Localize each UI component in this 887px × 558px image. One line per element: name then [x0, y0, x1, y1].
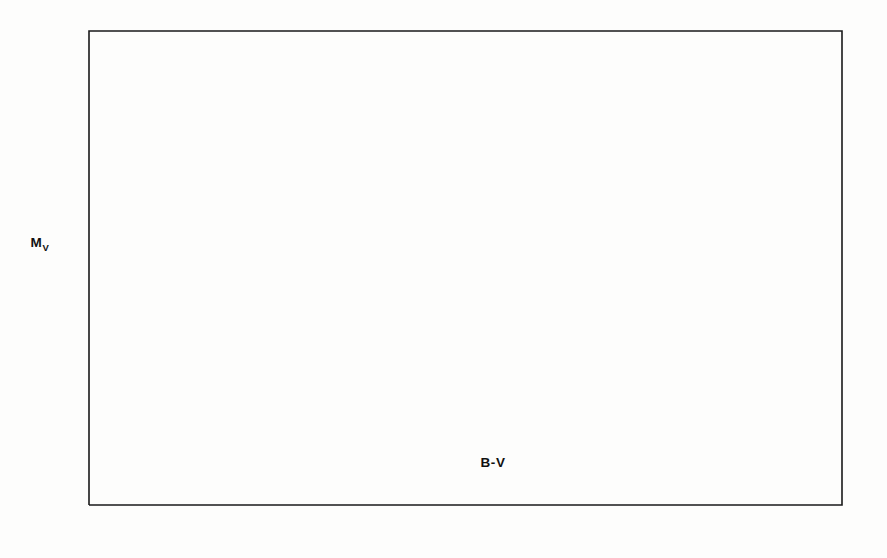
- plot-frame: [89, 31, 842, 505]
- axes-frame: [89, 31, 842, 505]
- y-axis-title-subscript: V: [42, 242, 49, 253]
- y-axis-title-main: M: [31, 235, 43, 250]
- x-axis-title: B-V: [480, 455, 505, 470]
- chart-canvas: B-V MV: [0, 0, 887, 558]
- y-axis-title: MV: [31, 235, 50, 253]
- color-magnitude-diagram-figure: B-V MV: [0, 0, 887, 558]
